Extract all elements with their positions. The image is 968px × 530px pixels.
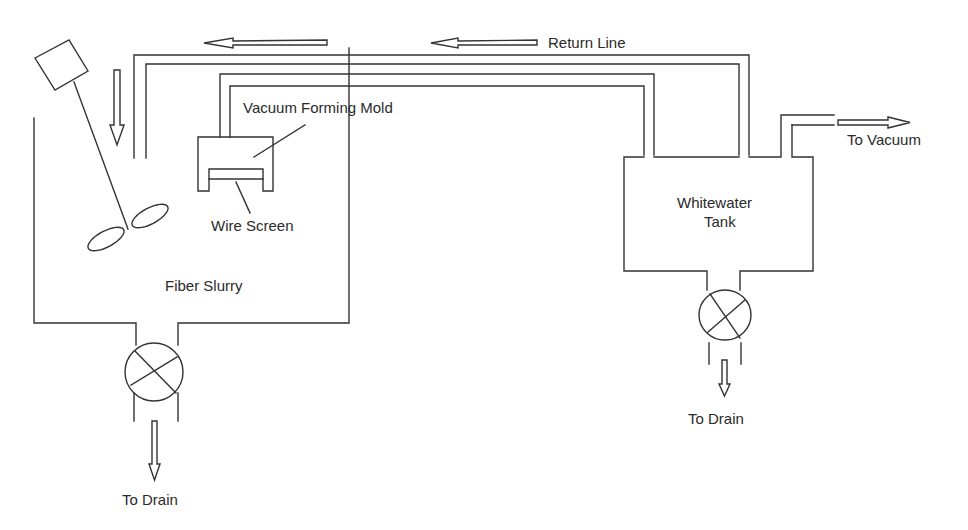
fiber-slurry-label: Fiber Slurry: [165, 277, 243, 294]
vacuum-forming-mold-label: Vacuum Forming Mold: [243, 99, 393, 116]
wire-screen-label: Wire Screen: [211, 217, 294, 234]
down-arrow-icon: [719, 360, 730, 396]
left-arrow-icon: [431, 38, 537, 48]
to-vacuum-label: To Vacuum: [847, 131, 921, 148]
left-arrow-icon: [204, 38, 327, 48]
agitator-icon: [35, 40, 171, 255]
process-diagram: Return Line Vacuum Forming Mold Wire Scr…: [0, 0, 968, 530]
whitewater-tank-label-2: Tank: [704, 213, 736, 230]
valve-icon: [699, 290, 751, 364]
to-drain-left-label: To Drain: [122, 491, 178, 508]
slurry-tank: [34, 48, 349, 345]
return-line-pipe: [134, 55, 749, 158]
whitewater-tank-label: Whitewater: [677, 194, 752, 211]
down-arrow-icon: [149, 421, 160, 480]
vacuum-forming-mold: [198, 137, 273, 191]
right-arrow-icon: [838, 117, 910, 128]
down-arrow-icon: [110, 70, 124, 145]
return-line-label: Return Line: [548, 34, 626, 51]
wire-screen-leader-line: [236, 182, 250, 213]
valve-icon: [125, 343, 183, 421]
to-drain-right-label: To Drain: [688, 410, 744, 427]
mold-leader-line: [254, 125, 305, 157]
